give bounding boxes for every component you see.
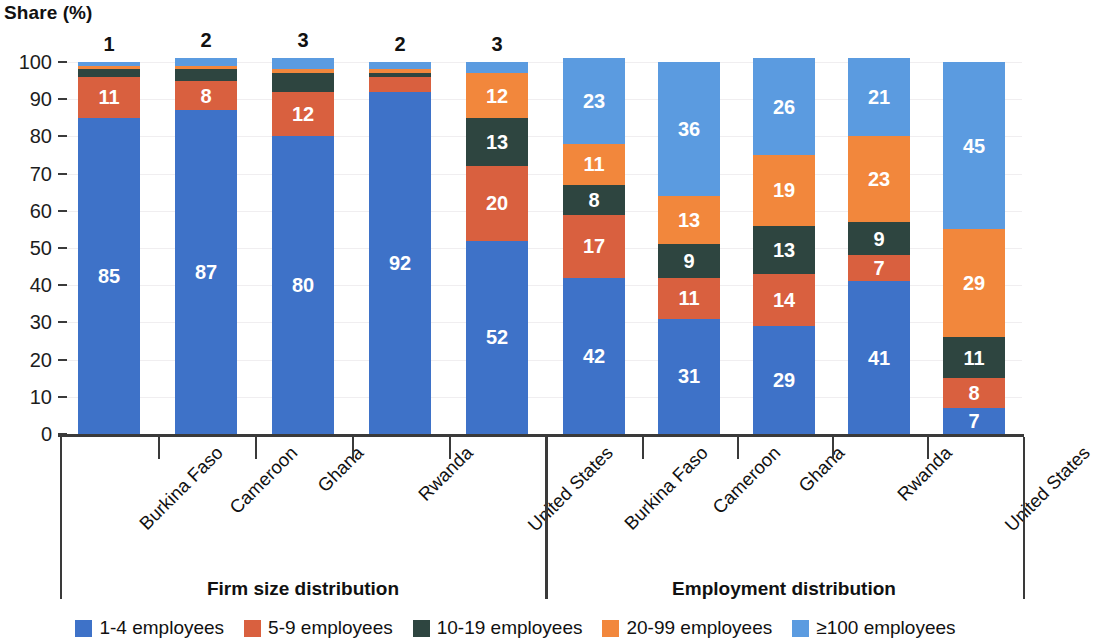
bar-employment-burkina-faso[interactable]: 421781123: [563, 58, 625, 434]
legend-label: 5-9 employees: [268, 617, 393, 639]
bar-segment: 52: [466, 241, 528, 434]
y-axis-tick-mark: [58, 173, 67, 175]
bar-segment: 9: [658, 244, 720, 277]
bar-segment: 29: [753, 326, 815, 434]
bar-segment: 23: [848, 136, 910, 222]
x-axis-tick: [832, 437, 834, 459]
legend-swatch-icon: [792, 620, 809, 637]
legend-item-e10_19[interactable]: 10-19 employees: [413, 617, 583, 639]
x-axis-category-label: United States: [1001, 442, 1095, 536]
y-axis-tick-label: 60: [0, 201, 52, 221]
legend-label: 1-4 employees: [99, 617, 224, 639]
legend-swatch-icon: [413, 620, 430, 637]
bar-segment: 20: [466, 166, 528, 240]
y-axis-tick-label: 10: [0, 387, 52, 407]
bar-segment: 23: [563, 58, 625, 144]
bar-segment: 21: [848, 58, 910, 136]
bar-segment: 9: [848, 222, 910, 255]
y-axis-tick-mark: [58, 433, 67, 435]
x-axis-tick: [642, 437, 644, 459]
x-axis-category-label: Rwanda: [893, 442, 957, 506]
bar-segment: [175, 58, 237, 65]
bar-employment-ghana[interactable]: 2914131926: [753, 58, 815, 434]
bar-segment: 12: [272, 92, 334, 137]
bar-segment: 13: [753, 226, 815, 274]
bar-employment-cameroon[interactable]: 311191336: [658, 62, 720, 434]
x-axis-tick: [352, 437, 354, 459]
bar-segment: 13: [466, 118, 528, 166]
bar-firm-united-states[interactable]: 522013123: [466, 62, 528, 434]
bar-segment: 12: [466, 73, 528, 118]
chart-legend: 1-4 employees5-9 employees10-19 employee…: [0, 617, 1031, 639]
group-title-employment: Employment distribution: [545, 578, 1023, 600]
bar-segment: 7: [848, 255, 910, 281]
y-axis-tick-mark: [58, 359, 67, 361]
x-axis-tick: [737, 437, 739, 459]
bar-total-label: 2: [369, 33, 431, 56]
bar-firm-ghana[interactable]: 80123: [272, 58, 334, 434]
bar-segment: 85: [78, 118, 140, 434]
bar-segment: 7: [943, 408, 1005, 434]
bar-segment: [272, 58, 334, 69]
group-title-firm-size: Firm size distribution: [60, 578, 546, 600]
y-axis-tick-mark: [58, 396, 67, 398]
y-axis-tick-mark: [58, 284, 67, 286]
bar-segment: [78, 69, 140, 76]
legend-item-e100[interactable]: ≥100 employees: [792, 617, 955, 639]
legend-label: ≥100 employees: [816, 617, 955, 639]
bar-segment: [272, 73, 334, 92]
bar-segment: 11: [943, 337, 1005, 378]
legend-swatch-icon: [244, 620, 261, 637]
y-axis-tick-mark: [58, 61, 67, 63]
bar-segment: 42: [563, 278, 625, 434]
legend-item-e5_9[interactable]: 5-9 employees: [244, 617, 393, 639]
bar-segment: 13: [658, 196, 720, 244]
y-axis-title: Share (%): [4, 2, 93, 24]
bar-segment: [175, 69, 237, 80]
bar-total-label: 2: [175, 29, 237, 52]
legend-swatch-icon: [602, 620, 619, 637]
y-axis-tick-mark: [58, 98, 67, 100]
bar-segment: [466, 62, 528, 73]
bar-segment: 8: [175, 81, 237, 111]
bar-segment: 11: [563, 144, 625, 185]
bar-segment: 92: [369, 92, 431, 434]
bar-segment: 31: [658, 319, 720, 434]
x-axis-category-label: United States: [524, 442, 618, 536]
bar-segment: 26: [753, 58, 815, 155]
bar-employment-rwanda[interactable]: 41792321: [848, 58, 910, 434]
bar-segment: 41: [848, 281, 910, 434]
x-axis-category-label: Ghana: [794, 442, 849, 497]
y-axis-tick-label: 30: [0, 312, 52, 332]
y-axis-tick-label: 0: [0, 424, 52, 444]
legend-item-e20_99[interactable]: 20-99 employees: [602, 617, 772, 639]
bar-total-label: 3: [466, 33, 528, 56]
group-boundary: [60, 437, 62, 599]
legend-label: 20-99 employees: [626, 617, 772, 639]
x-axis-category-label: Cameroon: [225, 442, 302, 519]
y-axis-tick-mark: [58, 210, 67, 212]
bar-firm-cameroon[interactable]: 8782: [175, 58, 237, 434]
bar-segment: [369, 62, 431, 69]
legend-label: 10-19 employees: [437, 617, 583, 639]
bar-firm-burkina-faso[interactable]: 85111: [78, 62, 140, 434]
bar-segment: 45: [943, 62, 1005, 229]
x-axis-category-label: Burkina Faso: [135, 442, 228, 535]
bar-segment: 29: [943, 229, 1005, 337]
bar-segment: 14: [753, 274, 815, 326]
legend-swatch-icon: [75, 620, 92, 637]
x-axis-line: [58, 434, 1024, 437]
bar-segment: 87: [175, 110, 237, 434]
y-axis-tick-label: 50: [0, 238, 52, 258]
y-axis-tick-label: 80: [0, 126, 52, 146]
bar-total-label: 3: [272, 29, 334, 52]
bar-firm-rwanda[interactable]: 922: [369, 62, 431, 434]
bar-employment-united-states[interactable]: 78112945: [943, 62, 1005, 434]
legend-item-e1_4[interactable]: 1-4 employees: [75, 617, 224, 639]
x-axis-category-label: Burkina Faso: [620, 442, 713, 535]
bar-segment: 17: [563, 215, 625, 278]
y-axis-tick-label: 90: [0, 89, 52, 109]
x-axis-tick: [255, 437, 257, 459]
bar-segment: 8: [563, 185, 625, 215]
